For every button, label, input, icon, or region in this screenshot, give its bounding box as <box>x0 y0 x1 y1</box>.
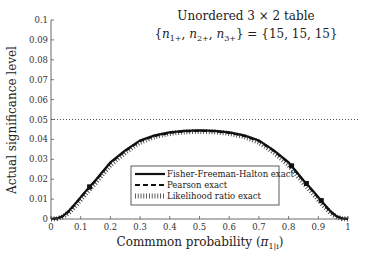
x-tick-label: 0.1 <box>74 222 88 232</box>
x-tick-label: 0.9 <box>312 222 326 232</box>
chart-subtitle: {n1+, n2+, n3+} = {15, 15, 15} <box>154 27 337 43</box>
svg-text:{n1+, n2+, n3+} = {15, 15, 15}: {n1+, n2+, n3+} = {15, 15, 15} <box>154 27 337 43</box>
data-marker <box>319 198 324 203</box>
y-tick-label: 0.1 <box>34 15 48 25</box>
x-tick-label: 0.6 <box>222 222 236 232</box>
x-tick-label: 0.3 <box>133 222 147 232</box>
y-tick-label: 0.09 <box>29 35 48 45</box>
data-marker <box>87 184 92 189</box>
y-tick-label: 0.08 <box>29 55 48 65</box>
x-tick-label: 0.8 <box>282 222 296 232</box>
x-tick-label: 0.7 <box>252 222 266 232</box>
y-tick-label: 0.04 <box>29 134 48 144</box>
x-tick-label: 0 <box>48 222 53 232</box>
x-tick-label: 0.2 <box>104 222 118 232</box>
chart-title: Unordered 3 × 2 table <box>177 9 314 23</box>
svg-text:Likelihood ratio exact: Likelihood ratio exact <box>167 191 262 201</box>
y-tick-label: 0.06 <box>29 95 48 105</box>
data-marker <box>289 163 294 168</box>
y-axis-label: Actual significance level <box>5 46 19 195</box>
legend: Fisher-Freeman-Halton exact Pearson exac… <box>131 166 294 205</box>
svg-text:Fisher-Freeman-Halton exact: Fisher-Freeman-Halton exact <box>167 169 294 179</box>
y-tick-label: 0.03 <box>29 154 48 164</box>
y-tick-label: 0.07 <box>29 75 48 85</box>
data-marker <box>304 181 309 186</box>
y-tick-label: 0.01 <box>29 194 48 204</box>
svg-text:Commmon probability (π1|i): Commmon probability (π1|i) <box>116 235 283 251</box>
x-tick-label: 1 <box>345 222 350 232</box>
svg-text:Pearson exact: Pearson exact <box>167 180 228 190</box>
x-axis-label: Commmon probability (π1|i) <box>116 235 283 251</box>
x-tick-label: 0.5 <box>193 222 207 232</box>
y-tick-label: 0.02 <box>29 174 48 184</box>
y-tick-label: 0 <box>43 214 48 224</box>
chart: 00.10.20.30.40.50.60.70.80.9100.010.020.… <box>0 0 381 255</box>
y-tick-label: 0.05 <box>29 115 48 125</box>
x-tick-label: 0.4 <box>163 222 177 232</box>
